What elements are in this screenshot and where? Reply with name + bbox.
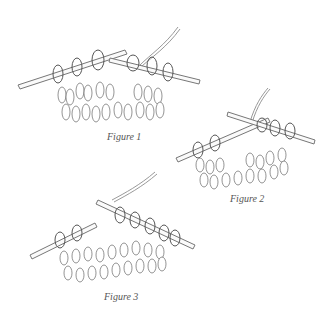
figure-2-illustration (176, 88, 315, 189)
figure-1-caption: Figure 1 (107, 131, 141, 142)
figure-1-illustration (18, 27, 200, 122)
figure-3-caption: Figure 3 (104, 291, 138, 302)
figure-3-illustration (30, 172, 195, 282)
knitting-illustrations (0, 0, 335, 311)
figure-2-caption: Figure 2 (230, 193, 264, 204)
